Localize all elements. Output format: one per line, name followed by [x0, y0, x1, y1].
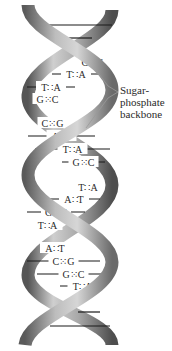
base-pair: C⁙G — [38, 117, 68, 129]
base-pair-label: A∷T — [45, 243, 64, 254]
label-line-3: backbone — [120, 108, 165, 120]
base-pair-label: C⁙G — [42, 118, 64, 129]
base-pair-label: T∷A — [41, 82, 61, 93]
base-pair-label: T∷A — [63, 144, 83, 155]
base-pair: T∷A — [52, 68, 100, 80]
sugar-phosphate-backbone-label: Sugar- phosphate backbone — [120, 84, 165, 120]
base-pair: A∷T — [40, 242, 70, 254]
base-pair: T∷A — [33, 219, 63, 231]
base-pair: T∷A — [73, 181, 103, 193]
base-pair-label: T∷A — [66, 69, 86, 80]
base-pair-label: T∷A — [78, 182, 98, 193]
base-pair-label: G⁙C — [73, 157, 95, 168]
base-pair-label: T∷A — [38, 220, 58, 231]
base-pair-label: G⁙C — [37, 94, 59, 105]
base-pair-label: G⁙C — [63, 269, 85, 280]
dna-helix-diagram: C⁙GT∷AT∷AG⁙CC⁙GA∷TT∷AG⁙CT∷AA∷TG⁙CT∷AA∷TC… — [0, 0, 172, 351]
base-pair-label: C⁙G — [53, 256, 75, 267]
base-pair-label: A∷T — [64, 194, 83, 205]
label-line-2: phosphate — [120, 96, 165, 108]
base-pair: G⁙C — [33, 93, 63, 105]
label-line-1: Sugar- — [120, 84, 165, 96]
